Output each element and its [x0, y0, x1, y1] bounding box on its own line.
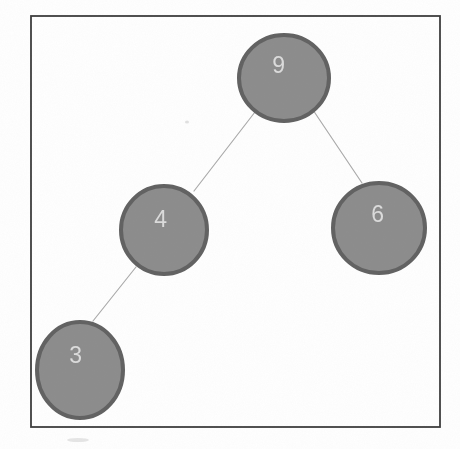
binary-tree-diagram: 9463: [0, 0, 460, 449]
scanned-figure-page: 9463: [0, 0, 460, 449]
scan-noise-overlay: [0, 0, 460, 449]
